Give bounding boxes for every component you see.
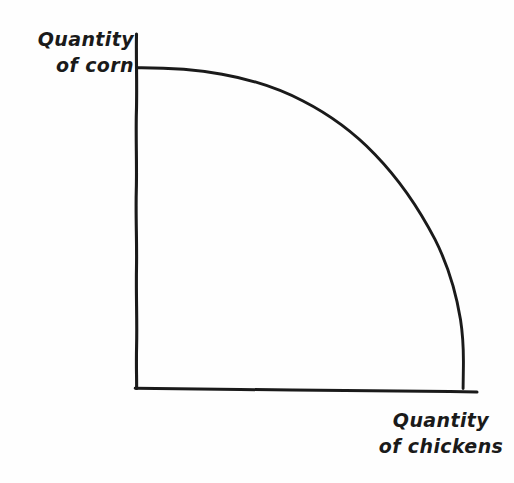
x-axis-line — [135, 388, 477, 392]
production-possibilities-frontier-curve — [138, 68, 464, 389]
x-axis-label-line-1: Quantity — [372, 408, 510, 434]
y-axis-line — [136, 34, 137, 389]
x-axis-label-line-2: of chickens — [372, 434, 510, 460]
y-axis-label-line-2: of corn — [18, 53, 134, 79]
chart-canvas: Quantity of corn Quantity of chickens — [0, 0, 514, 483]
x-axis-label: Quantity of chickens — [372, 408, 510, 460]
y-axis-label: Quantity of corn — [18, 27, 134, 79]
y-axis-label-line-1: Quantity — [18, 27, 134, 53]
